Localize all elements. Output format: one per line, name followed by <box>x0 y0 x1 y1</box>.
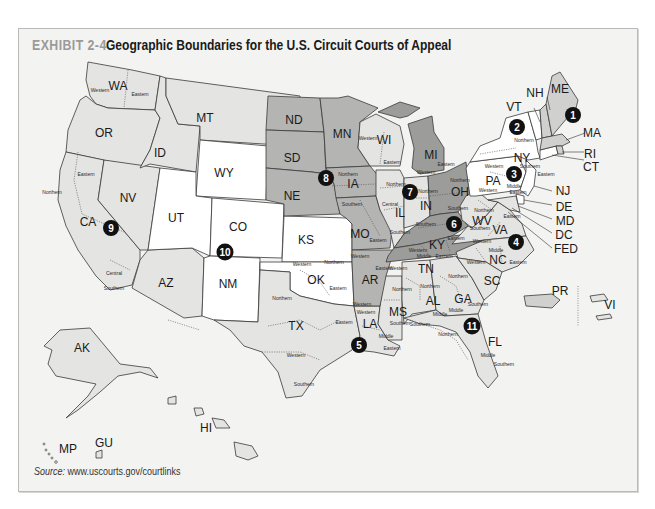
district-label: Eastern <box>435 253 452 259</box>
district-label: Eastern <box>383 159 400 165</box>
label-pr: PR <box>552 284 569 298</box>
circuit-marker-8[interactable]: 8 <box>318 170 334 186</box>
label-oh: OH <box>451 185 469 199</box>
district-label: Eastern <box>369 237 386 243</box>
district-label: Western <box>357 309 376 315</box>
district-label: Northern <box>272 295 292 301</box>
label-nh: NH <box>526 86 543 100</box>
circuit-marker-7[interactable]: 7 <box>402 184 418 200</box>
label-or: OR <box>95 126 113 140</box>
svg-text:7: 7 <box>407 187 413 198</box>
label-mi: MI <box>424 148 437 162</box>
circuit-marker-10[interactable]: 10 <box>217 244 234 261</box>
label-ar: AR <box>362 273 379 287</box>
circuit-marker-11[interactable]: 11 <box>464 318 481 335</box>
label-ak: AK <box>74 341 90 355</box>
district-label: Northern <box>386 181 406 187</box>
label-la: LA <box>363 317 378 331</box>
territory-mp <box>43 443 57 463</box>
label-nc: NC <box>489 253 507 267</box>
district-label: Central <box>106 270 122 276</box>
district-label: Eastern <box>131 91 148 97</box>
label-ky: KY <box>429 238 445 252</box>
district-label: Middle <box>449 307 464 313</box>
district-label: Northern <box>392 286 412 292</box>
label-ri: RI <box>584 147 596 161</box>
district-label: Western <box>91 87 110 93</box>
district-label: Southern <box>294 381 315 387</box>
district-label: Southern <box>390 229 411 235</box>
label-az: AZ <box>158 276 173 290</box>
label-pa: PA <box>485 174 500 188</box>
district-label: Eastern <box>77 171 94 177</box>
label-ne: NE <box>284 189 301 203</box>
district-label: Northern <box>474 207 494 213</box>
label-co: CO <box>229 220 247 234</box>
circuit-marker-9[interactable]: 9 <box>103 220 119 236</box>
svg-text:11: 11 <box>467 321 478 332</box>
circuit-marker-6[interactable]: 6 <box>446 216 462 232</box>
label-sc: SC <box>484 274 501 288</box>
svg-text:9: 9 <box>108 223 114 234</box>
circuit-marker-5[interactable]: 5 <box>351 337 367 353</box>
district-label: Western <box>293 261 312 267</box>
label-vt: VT <box>506 100 522 114</box>
circuit-marker-3[interactable]: 3 <box>506 166 522 182</box>
label-gu: GU <box>95 436 113 450</box>
state-hi <box>168 396 258 460</box>
district-label: Eastern <box>509 189 526 195</box>
svg-text:5: 5 <box>356 340 362 351</box>
district-label: Middle <box>489 247 504 253</box>
label-dc: DC <box>555 228 573 242</box>
source-url[interactable]: www.uscourts.gov/courtlinks <box>68 466 181 477</box>
label-mn: MN <box>333 127 352 141</box>
district-label: Northern <box>324 259 344 265</box>
label-nj: NJ <box>556 184 571 198</box>
label-fed: FED <box>554 242 578 256</box>
district-label: Northern <box>338 171 358 177</box>
district-label: Northern <box>450 177 470 183</box>
svg-text:3: 3 <box>511 169 517 180</box>
label-nd: ND <box>285 113 303 127</box>
territory-gu <box>96 450 102 458</box>
label-ct: CT <box>583 160 600 174</box>
district-label: Western <box>287 352 306 358</box>
label-wy: WY <box>214 166 233 180</box>
district-label: Eastern <box>537 171 554 177</box>
circuit-marker-4[interactable]: 4 <box>508 234 524 250</box>
svg-text:6: 6 <box>451 219 457 230</box>
label-wi: WI <box>377 133 392 147</box>
district-label: Central <box>382 201 398 207</box>
svg-text:8: 8 <box>323 173 329 184</box>
label-sd: SD <box>284 151 301 165</box>
district-label: Southern <box>390 320 411 326</box>
label-hi: HI <box>200 421 212 435</box>
source-label: Source: <box>34 466 65 477</box>
label-mp: MP <box>59 442 77 456</box>
district-label: Western <box>473 238 492 244</box>
svg-text:10: 10 <box>219 247 231 258</box>
district-label: Northern <box>514 137 534 143</box>
district-label: Middle <box>433 311 448 317</box>
circuit-marker-1[interactable]: 1 <box>565 107 581 123</box>
label-tx: TX <box>288 319 303 333</box>
district-label: Middle <box>481 352 496 358</box>
circuit-marker-2[interactable]: 2 <box>509 119 525 135</box>
district-label: Southern <box>520 163 541 169</box>
source-citation: Source: www.uscourts.gov/courtlinks <box>34 466 181 477</box>
district-label: Southern <box>416 221 437 227</box>
label-ks: KS <box>298 233 314 247</box>
label-tn: TN <box>418 262 434 276</box>
state-ak <box>44 328 158 418</box>
district-label: Northern <box>448 273 468 279</box>
state-ks <box>282 216 352 262</box>
label-nm: NM <box>219 277 238 291</box>
district-label: Western <box>353 301 372 307</box>
district-label: Western <box>479 187 498 193</box>
label-id: ID <box>154 146 166 160</box>
district-label: Southern <box>468 301 489 307</box>
district-label: Southern <box>494 361 515 367</box>
label-ca: CA <box>80 215 97 229</box>
label-ia: IA <box>347 177 358 191</box>
svg-text:2: 2 <box>514 122 520 133</box>
